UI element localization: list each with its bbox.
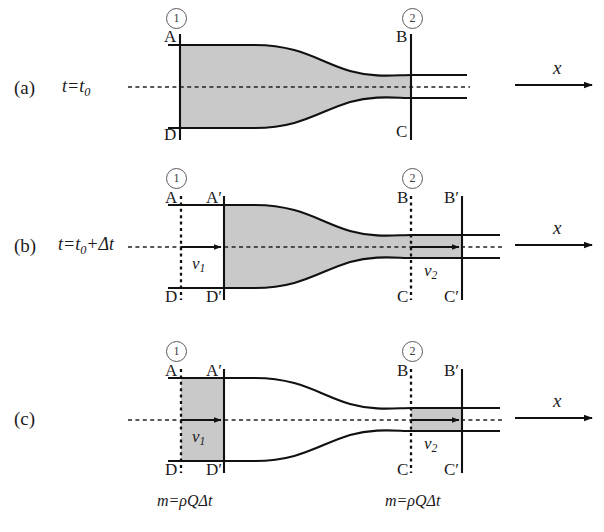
panel-tag-c: (c) [14, 409, 35, 428]
time-b-plus: + [86, 234, 98, 254]
v1-b-sub: 1 [200, 262, 206, 275]
point-label-Dprime-c: D′ [206, 461, 222, 478]
point-label-D-a: D [164, 126, 176, 143]
time-a-equals: = [67, 76, 79, 96]
point-label-C-b: C [397, 288, 408, 305]
v1-c-base: v [192, 427, 200, 446]
mass-2-Q: Q [415, 492, 427, 509]
point-label-C-c: C [397, 461, 408, 478]
mass-label-station-1: m=ρQΔt [157, 493, 212, 509]
point-label-B-c: B [397, 362, 408, 379]
v1-c-sub: 1 [200, 435, 206, 448]
panel-b-graphics [128, 196, 592, 300]
point-label-Bprime-c: B′ [444, 362, 459, 379]
panel-tag-b: (b) [14, 236, 36, 255]
panel-tag-a: (a) [14, 78, 35, 97]
time-label-b: t=t0+Δt [58, 235, 114, 253]
mass-1-m: m [157, 492, 169, 509]
mass-2-rho: ρ [407, 492, 415, 509]
point-label-B-a: B [396, 28, 407, 45]
mass-2-equals: = [397, 492, 408, 509]
time-b-equals: = [63, 234, 75, 254]
x-axis-label-b: x [553, 218, 561, 237]
x-axis-label-a: x [553, 58, 561, 77]
point-label-Dprime-b: D′ [206, 288, 222, 305]
station-number-2-a: 2 [402, 8, 423, 29]
fluid-continuity-figure: (a) t=t0 1 2 A D B C x (b) t=t0+Δt 1 2 A… [0, 0, 604, 532]
station-number-1-c: 1 [166, 341, 187, 362]
station-number-1-a: 1 [166, 8, 187, 29]
velocity-label-v2-c: v2 [424, 435, 437, 452]
panel-c-graphics [128, 369, 592, 473]
mass-1-rho: ρ [179, 492, 187, 509]
fluid-body-a [179, 45, 412, 128]
point-label-D-c: D [165, 461, 177, 478]
time-b-t0-sub: 0 [80, 243, 86, 257]
figure-canvas [0, 0, 604, 532]
station-number-2-c: 2 [402, 341, 423, 362]
velocity-label-v1-c: v1 [192, 428, 205, 445]
v2-b-sub: 2 [432, 269, 438, 282]
point-label-B-b: B [397, 189, 408, 206]
velocity-label-v1-b: v1 [192, 255, 205, 272]
point-label-Aprime-b: A′ [206, 189, 222, 206]
mass-2-delta-t: Δt [427, 492, 441, 509]
station-number-2-b: 2 [402, 168, 423, 189]
time-b-delta-t: Δt [98, 234, 114, 254]
v2-c-base: v [424, 434, 432, 453]
point-label-A-c: A [165, 362, 177, 379]
point-label-Cprime-b: C′ [444, 288, 459, 305]
velocity-label-v2-b: v2 [424, 262, 437, 279]
time-a-t0-sub: 0 [84, 85, 90, 99]
point-label-D-b: D [165, 288, 177, 305]
mass-1-Q: Q [187, 492, 199, 509]
point-label-C-a: C [396, 123, 407, 140]
v2-b-base: v [424, 261, 432, 280]
point-label-Cprime-c: C′ [444, 461, 459, 478]
point-label-Bprime-b: B′ [444, 189, 459, 206]
v2-c-sub: 2 [432, 442, 438, 455]
mass-label-station-2: m=ρQΔt [385, 493, 440, 509]
mass-1-delta-t: Δt [199, 492, 213, 509]
point-label-Aprime-c: A′ [206, 362, 222, 379]
v1-b-base: v [192, 254, 200, 273]
point-label-A-a: A [164, 28, 176, 45]
station-number-1-b: 1 [166, 168, 187, 189]
mass-2-m: m [385, 492, 397, 509]
time-label-a: t=t0 [62, 77, 90, 95]
panel-a-graphics [128, 34, 592, 140]
point-label-A-b: A [165, 189, 177, 206]
mass-1-equals: = [169, 492, 180, 509]
x-axis-label-c: x [553, 391, 561, 410]
